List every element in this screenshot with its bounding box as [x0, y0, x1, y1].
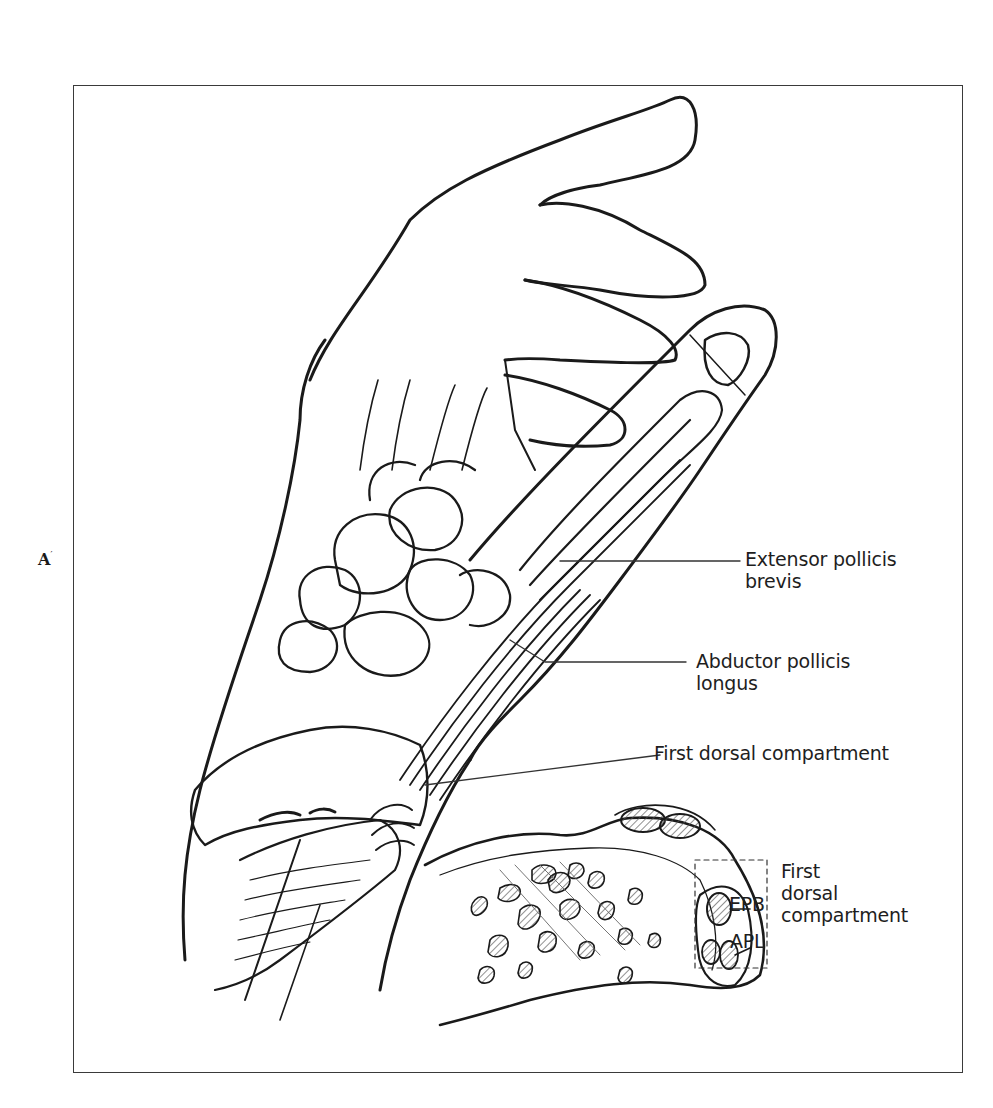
forearm-radial-border — [380, 760, 470, 990]
label-line: brevis — [745, 570, 897, 592]
first-compartment-tendons — [400, 460, 690, 800]
label-abductor-pollicis-longus: Abductor pollicis longus — [696, 650, 850, 694]
label-extensor-pollicis-brevis: Extensor pollicis brevis — [745, 548, 897, 592]
ring-finger — [505, 280, 676, 363]
cancellous-bone — [471, 863, 660, 983]
label-line: Abductor pollicis — [696, 650, 850, 672]
label-epb: EPB — [729, 893, 765, 915]
extensor-retinaculum — [191, 727, 427, 845]
label-line: First dorsal compartment — [654, 742, 889, 764]
metacarpals — [360, 380, 487, 470]
label-line: First — [781, 860, 908, 882]
middle-finger — [525, 203, 705, 297]
carpal-bones — [279, 461, 510, 675]
label-line: dorsal — [781, 882, 908, 904]
thumb-bones — [520, 391, 722, 600]
forearm-muscles — [215, 820, 400, 1020]
label-first-dorsal-compartment-section: First dorsal compartment — [781, 860, 908, 926]
hand-ulnar-border — [183, 340, 325, 960]
little-finger — [505, 375, 625, 446]
label-line: compartment — [781, 904, 908, 926]
label-line: longus — [696, 672, 850, 694]
label-apl: APL — [730, 930, 764, 952]
label-line: EPB — [729, 893, 765, 915]
index-finger — [310, 97, 696, 380]
label-line: Extensor pollicis — [745, 548, 897, 570]
label-first-dorsal-compartment: First dorsal compartment — [654, 742, 889, 764]
leader-abductor-pollicis-longus — [510, 640, 686, 662]
label-line: APL — [730, 930, 764, 952]
